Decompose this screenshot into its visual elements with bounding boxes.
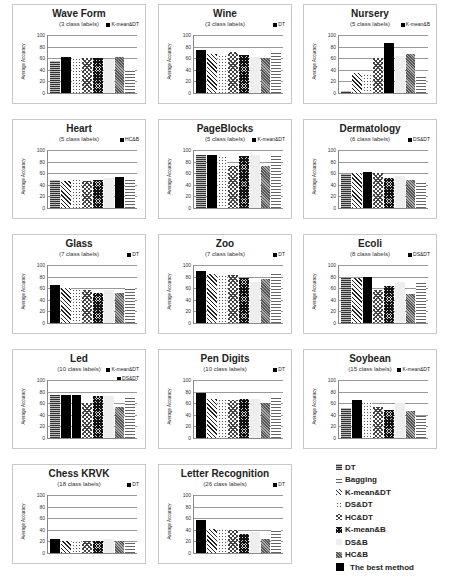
y-tick-label: 40 [323, 412, 336, 418]
y-tick-label: 80 [32, 159, 45, 165]
legend-item: DS&DT [336, 499, 414, 511]
bar-bagging [125, 179, 135, 208]
chart-best-legend: DS&DT [408, 251, 430, 257]
y-tick-label: 60 [178, 515, 191, 521]
bar-k-mean-dt [207, 274, 217, 323]
y-tick-label: 20 [323, 193, 336, 199]
plot-area: 020406080100 [193, 265, 283, 324]
bar-hc-dt [373, 173, 383, 208]
bar-hc-dt [228, 52, 238, 93]
legend-label: K-mean&DT [345, 488, 391, 497]
bar-k-mean-b [239, 534, 249, 553]
bar-bagging [416, 281, 426, 323]
chart-best-legend: HC&B [120, 136, 139, 142]
bar-bagging [416, 183, 426, 208]
bar-dt [196, 271, 206, 323]
legend-swatch-icon [106, 368, 110, 372]
y-tick-label: 0 [178, 435, 191, 441]
bar-dt [341, 91, 351, 93]
bar-ds-dt [72, 541, 82, 553]
chart-best-legend: DS&DT [408, 136, 430, 142]
bar-k-mean-dt [207, 155, 217, 208]
bar-hc-dt [82, 541, 92, 553]
chart-title: Pen Digits [159, 353, 291, 364]
y-tick-label: 60 [32, 170, 45, 176]
bar-k-mean-dt [61, 181, 71, 208]
y-tick-label: 20 [178, 423, 191, 429]
bar-ds-dt [218, 156, 228, 208]
bar-ds-b [250, 532, 260, 553]
chart-panel-led: Led(10 class labels)K-mean&DTDS&DTAverag… [12, 349, 146, 449]
legend-swatch-icon [336, 489, 342, 495]
chart-best-legend: K-mean&DT [106, 21, 139, 27]
chart-panel-letter-recognition: Letter Recognition(26 class labels)DTAve… [158, 464, 292, 564]
bar-hc-b [115, 541, 125, 553]
bar-dt [50, 395, 60, 439]
chart-panel-chess-krvk: Chess KRVK(18 class labels)DTAverage Acc… [12, 464, 146, 564]
chart-panel-soybean: Soybean(15 class labels)K-mean&DTAverage… [303, 349, 437, 449]
y-axis-label: Average Accuracy [312, 43, 317, 79]
y-axis-label: Average Accuracy [167, 503, 172, 539]
chart-best-legend: DT [127, 481, 139, 487]
bar-hc-b [406, 180, 416, 208]
plot-area: 020406080100 [193, 150, 283, 209]
y-tick-label: 80 [323, 389, 336, 395]
bar-ds-b [250, 282, 260, 323]
bar-k-mean-b [384, 286, 394, 323]
chart-subtitle: (3 class labels) [159, 21, 291, 27]
bar-k-mean-b [239, 278, 249, 323]
legend-label: DS&DT [345, 500, 373, 509]
legend-label: HC&DT [345, 513, 373, 522]
bar-hc-dt [228, 275, 238, 323]
bar-bagging [271, 273, 281, 323]
bar-k-mean-dt [61, 57, 71, 93]
plot-area: 020406080100 [338, 380, 428, 439]
y-tick-label: 20 [32, 423, 45, 429]
y-tick-label: 20 [32, 538, 45, 544]
bar-bagging [125, 69, 135, 93]
y-tick-label: 20 [178, 78, 191, 84]
bar-hc-b [115, 407, 125, 438]
chart-panel-zoo: Zoo(7 class labels)DTAverage Accuracy020… [158, 234, 292, 334]
legend-swatch-icon [273, 253, 277, 257]
y-axis-label: Average Accuracy [167, 43, 172, 79]
y-tick-label: 80 [323, 274, 336, 280]
y-tick-label: 40 [323, 297, 336, 303]
legend-swatch-icon [408, 253, 412, 257]
y-tick-label: 0 [323, 90, 336, 96]
legend-swatch-icon [106, 23, 110, 27]
legend-item: Bagging [336, 474, 414, 486]
chart-subtitle: (18 class labels) [13, 481, 145, 487]
bar-hc-b [261, 166, 271, 208]
legend-item: DS&B [336, 536, 414, 548]
plot-area: 020406080100 [193, 380, 283, 439]
plot-area: 020406080100 [193, 35, 283, 94]
y-axis-label: Average Accuracy [21, 503, 26, 539]
bar-hc-b [261, 279, 271, 323]
bar-hc-b [406, 411, 416, 438]
chart-title: Glass [13, 238, 145, 249]
y-tick-label: 80 [323, 159, 336, 165]
legend-item: K-mean&DT [336, 486, 414, 498]
y-tick-label: 100 [32, 262, 45, 268]
bar-dt [50, 285, 60, 323]
legend-swatch-icon [127, 253, 131, 257]
plot-area: 020406080100 [338, 150, 428, 209]
y-tick-label: 100 [178, 262, 191, 268]
chart-panel-dermatology: Dermatology(6 class labels)DS&DTAverage … [303, 119, 437, 219]
y-tick-label: 100 [178, 32, 191, 38]
y-tick-label: 60 [32, 515, 45, 521]
bar-ds-dt [72, 289, 82, 323]
y-tick-label: 40 [323, 182, 336, 188]
bar-hc-b [115, 57, 125, 93]
y-tick-label: 100 [32, 147, 45, 153]
y-tick-label: 60 [178, 170, 191, 176]
y-tick-label: 80 [32, 274, 45, 280]
bar-bagging [416, 76, 426, 93]
y-tick-label: 100 [323, 262, 336, 268]
legend-swatch-icon [401, 23, 405, 27]
y-tick-label: 40 [32, 527, 45, 533]
y-tick-label: 0 [32, 90, 45, 96]
legend-swatch-icon [336, 464, 342, 470]
chart-best-legend: DT [273, 366, 285, 372]
